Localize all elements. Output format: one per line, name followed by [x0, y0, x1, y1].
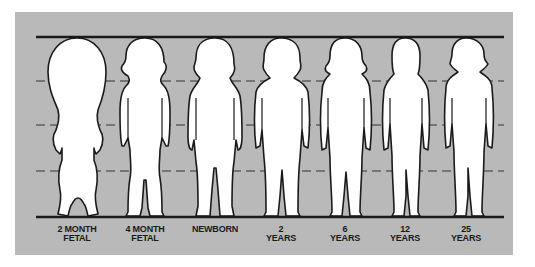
figure-2-years — [255, 38, 310, 216]
label-line-2: YEARS — [426, 234, 506, 243]
label-25-years: 25 YEARS — [426, 225, 506, 243]
figure-25-years — [445, 38, 494, 216]
label-line-2: FETAL — [105, 234, 185, 243]
label-4-month-fetal: 4 MONTH FETAL — [105, 225, 185, 243]
figure-12-years — [383, 38, 430, 216]
figure-2-month-fetal — [48, 38, 106, 216]
